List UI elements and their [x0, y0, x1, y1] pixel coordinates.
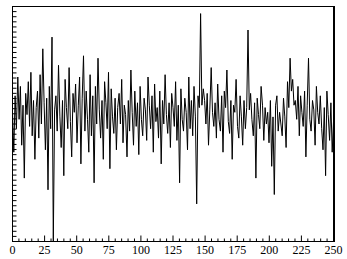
x-tick-label: 100 [132, 243, 150, 258]
line-chart [0, 0, 347, 259]
x-tick-label: 75 [103, 243, 115, 258]
x-tick-label: 225 [292, 243, 310, 258]
x-tick-label: 25 [39, 243, 51, 258]
x-tick-label: 200 [260, 243, 278, 258]
x-tick-label: 175 [228, 243, 246, 258]
x-axis-ticks [13, 236, 334, 242]
x-tick-label: 50 [71, 243, 83, 258]
x-tick-label: 0 [10, 243, 16, 258]
x-tick-label: 125 [164, 243, 182, 258]
x-tick-label: 150 [196, 243, 214, 258]
x-tick-label: 250 [325, 243, 343, 258]
signal-line [13, 14, 334, 242]
